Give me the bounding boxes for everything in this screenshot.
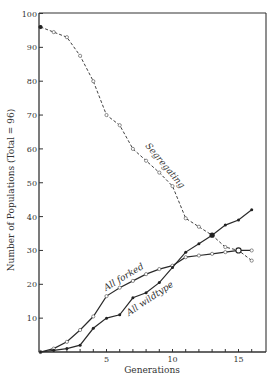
data-point xyxy=(171,266,174,269)
y-axis-ticks: 102030405060708090100 xyxy=(22,10,43,324)
line-chart: 51015 102030405060708090100 Generations … xyxy=(0,0,275,380)
data-point xyxy=(224,251,227,254)
data-point xyxy=(131,279,134,282)
data-point xyxy=(158,281,161,284)
x-tick-label: 10 xyxy=(167,355,177,364)
data-point xyxy=(105,295,108,298)
crossing-point xyxy=(210,233,215,238)
x-axis-ticks: 51015 xyxy=(54,349,252,364)
data-point xyxy=(79,344,82,347)
data-point xyxy=(52,349,55,352)
y-tick-label: 10 xyxy=(27,314,37,323)
data-point xyxy=(224,224,227,227)
data-point xyxy=(171,185,174,188)
data-point xyxy=(145,159,148,162)
data-point xyxy=(105,317,108,320)
data-point xyxy=(65,340,68,343)
data-point xyxy=(250,249,253,252)
y-tick-label: 50 xyxy=(27,179,37,188)
data-point xyxy=(118,124,121,127)
data-point xyxy=(39,351,42,354)
series-all-wildtype xyxy=(39,208,253,353)
special-markers xyxy=(39,25,242,253)
data-point xyxy=(211,252,214,255)
data-point xyxy=(158,171,161,174)
series-label-all-forked: All forked xyxy=(101,261,146,293)
data-point xyxy=(92,327,95,330)
y-tick-label: 20 xyxy=(27,280,37,289)
data-point xyxy=(131,296,134,299)
y-tick-label: 90 xyxy=(27,43,37,52)
data-point xyxy=(184,217,187,220)
data-point xyxy=(52,31,55,34)
data-point xyxy=(237,218,240,221)
data-point xyxy=(250,259,253,262)
data-point xyxy=(79,328,82,331)
x-tick-label: 15 xyxy=(233,355,243,364)
y-tick-label: 100 xyxy=(22,10,37,19)
data-point xyxy=(105,113,108,116)
data-point xyxy=(65,36,68,39)
data-point xyxy=(65,347,68,350)
series-line xyxy=(41,210,252,352)
data-point xyxy=(224,245,227,248)
data-point xyxy=(145,273,148,276)
start-point xyxy=(39,25,43,29)
series-label-segregating: Segregating xyxy=(143,141,187,191)
data-point xyxy=(197,254,200,257)
data-point xyxy=(197,242,200,245)
data-point xyxy=(118,286,121,289)
data-point xyxy=(118,313,121,316)
data-point xyxy=(250,208,253,211)
data-point xyxy=(79,54,82,57)
y-tick-label: 60 xyxy=(27,145,37,154)
data-point xyxy=(92,315,95,318)
y-tick-label: 70 xyxy=(27,111,37,120)
data-point xyxy=(92,80,95,83)
y-tick-label: 30 xyxy=(27,246,37,255)
convergence-point xyxy=(236,248,241,253)
data-point xyxy=(184,251,187,254)
x-tick-label: 5 xyxy=(104,355,109,364)
y-tick-label: 80 xyxy=(27,77,37,86)
series-label-all-wildtype: All wildtype xyxy=(124,279,175,318)
y-tick-label: 40 xyxy=(27,213,37,222)
x-axis-title: Generations xyxy=(124,365,180,375)
y-axis-title: Number of Populations (Total = 96) xyxy=(6,109,16,272)
data-point xyxy=(131,147,134,150)
data-point xyxy=(158,267,161,270)
data-point xyxy=(184,256,187,259)
data-point xyxy=(197,225,200,228)
